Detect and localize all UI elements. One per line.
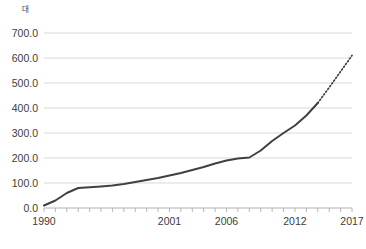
x-axis-tick-label: 2017 [340, 216, 363, 227]
x-axis-tick-label: 2012 [283, 216, 306, 227]
plot-area [0, 0, 366, 249]
gridlines [44, 33, 352, 183]
x-axis-tick-label: 2006 [215, 216, 238, 227]
series-line-actual [44, 103, 318, 206]
x-axis-ticks [44, 208, 352, 212]
line-chart: 대 0.0100.0200.0300.0400.0500.0600.0700.0… [0, 0, 366, 249]
x-axis-tick-label: 1990 [32, 216, 55, 227]
x-axis-tick-label: 2001 [158, 216, 181, 227]
series-line-projection [318, 56, 352, 104]
